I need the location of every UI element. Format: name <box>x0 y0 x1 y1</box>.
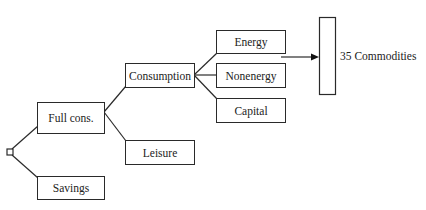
node-full-cons: Full cons. <box>37 102 105 134</box>
node-label: Capital <box>234 105 267 117</box>
node-label: Savings <box>53 182 89 194</box>
node-capital: Capital <box>216 98 286 123</box>
node-label: Consumption <box>129 70 191 82</box>
root-node-square <box>7 149 13 155</box>
commodities-box <box>320 18 336 95</box>
node-label: Nonenergy <box>226 70 277 82</box>
node-savings: Savings <box>37 176 105 200</box>
node-energy: Energy <box>216 30 286 54</box>
commodities-label: 35 Commodities <box>340 50 416 62</box>
node-nonenergy: Nonenergy <box>216 63 286 88</box>
node-leisure: Leisure <box>125 140 195 165</box>
node-label: Full cons. <box>48 112 93 124</box>
node-label: Energy <box>234 36 267 48</box>
node-label: Leisure <box>143 147 177 159</box>
arrowhead-icon <box>311 54 319 61</box>
node-consumption: Consumption <box>125 63 195 88</box>
